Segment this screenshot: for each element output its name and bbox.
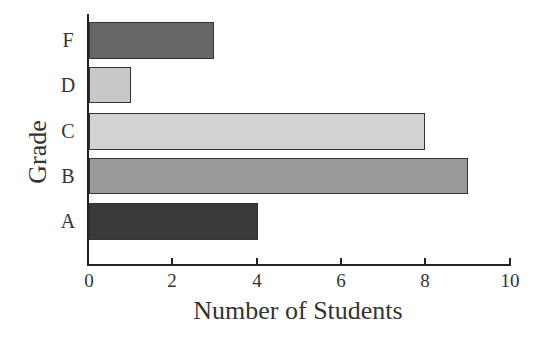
- x-tick-2: [171, 258, 173, 265]
- x-tick-8: [424, 258, 426, 265]
- x-tick-label-4: 4: [252, 270, 262, 292]
- bar-grade-f: [89, 22, 214, 59]
- category-label-c: C: [58, 120, 78, 143]
- x-tick-label-2: 2: [167, 270, 177, 292]
- bar-grade-a: [89, 203, 258, 240]
- x-tick-label-8: 8: [420, 270, 430, 292]
- x-tick-6: [340, 258, 342, 265]
- x-tick-label-0: 0: [84, 270, 94, 292]
- category-label-f: F: [58, 29, 78, 52]
- x-tick-label-10: 10: [501, 270, 520, 292]
- category-label-d: D: [58, 74, 78, 97]
- x-tick-10: [509, 258, 511, 265]
- y-axis-title: Grade: [23, 120, 53, 184]
- bar-grade-b: [89, 158, 468, 194]
- x-axis-title: Number of Students: [193, 296, 402, 326]
- bar-grade-c: [89, 113, 425, 150]
- x-tick-4: [256, 258, 258, 265]
- category-label-a: A: [58, 210, 78, 233]
- bar-grade-d: [89, 67, 131, 103]
- x-tick-label-6: 6: [336, 270, 346, 292]
- x-axis-line: [87, 264, 511, 266]
- category-label-b: B: [58, 165, 78, 188]
